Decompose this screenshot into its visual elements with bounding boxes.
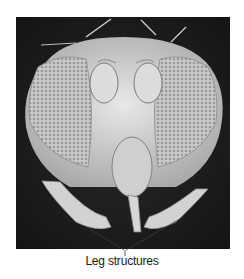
fly-head-micrograph	[16, 17, 230, 249]
fly-head-illustration	[16, 17, 230, 249]
leg-structures-label: Leg structures	[0, 254, 244, 268]
